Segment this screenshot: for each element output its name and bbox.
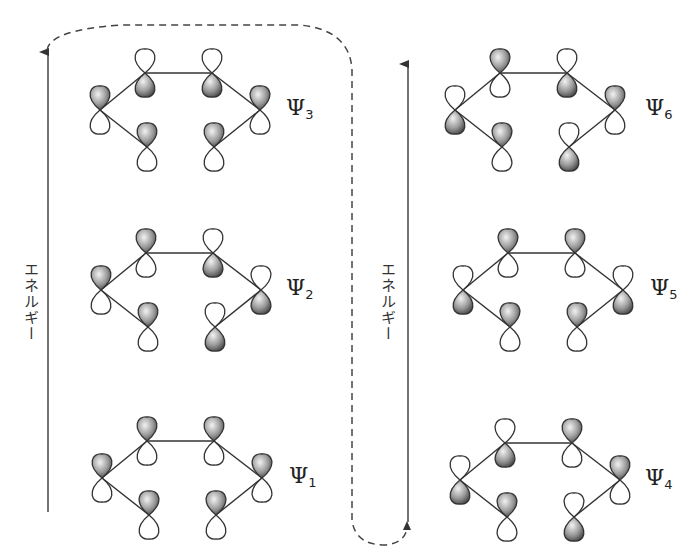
p-orbital-bottom-left <box>138 303 158 351</box>
orbital-psi4 <box>450 419 630 541</box>
unshaded-lobe <box>557 49 577 73</box>
p-orbital-right <box>613 266 633 314</box>
psi-1-label: Ψ1 <box>289 463 317 490</box>
unshaded-lobe <box>564 493 584 517</box>
p-orbital-left <box>90 86 110 134</box>
shaded-lobe <box>91 266 111 290</box>
p-orbital-left <box>445 86 465 134</box>
shaded-lobe <box>610 456 630 480</box>
shaded-lobe <box>500 303 520 327</box>
unshaded-lobe <box>450 456 470 480</box>
shaded-lobe <box>92 454 112 478</box>
shaded-lobe <box>613 290 633 314</box>
shaded-lobe <box>495 443 515 467</box>
shaded-lobe <box>559 147 579 171</box>
p-orbital-right <box>610 456 630 504</box>
unshaded-lobe <box>252 478 272 502</box>
unshaded-lobe <box>136 253 156 277</box>
unshaded-lobe <box>613 266 633 290</box>
shaded-lobe <box>252 454 272 478</box>
p-orbital-bottom-right <box>559 123 579 171</box>
orbital-psi3 <box>90 49 270 171</box>
unshaded-lobe <box>250 110 270 134</box>
unshaded-lobe <box>138 327 158 351</box>
unshaded-lobe <box>565 253 585 277</box>
shaded-lobe <box>445 110 465 134</box>
unshaded-lobe <box>445 86 465 110</box>
shaded-lobe <box>136 229 156 253</box>
shaded-lobe <box>567 303 587 327</box>
unshaded-lobe <box>495 419 515 443</box>
unshaded-lobe <box>204 147 224 171</box>
unshaded-lobe <box>137 147 157 171</box>
unshaded-lobe <box>90 110 110 134</box>
p-orbital-bottom-right <box>567 303 587 351</box>
orbital-psi1 <box>92 417 272 539</box>
psi-5-label: Ψ5 <box>650 275 678 302</box>
unshaded-lobe <box>204 441 224 465</box>
p-orbital-bottom-right <box>564 493 584 541</box>
energy-label-right: エネルギー <box>379 262 394 342</box>
shaded-lobe <box>497 493 517 517</box>
shaded-lobe <box>498 229 518 253</box>
shaded-lobe <box>605 86 625 110</box>
p-orbital-bottom-left <box>137 123 157 171</box>
shaded-lobe <box>206 491 226 515</box>
unshaded-lobe <box>251 266 271 290</box>
shaded-lobe <box>453 290 473 314</box>
shaded-lobe <box>562 419 582 443</box>
orbital-psi6 <box>445 49 625 171</box>
shaded-lobe <box>557 73 577 97</box>
unshaded-lobe <box>91 290 111 314</box>
unshaded-lobe <box>490 73 510 97</box>
unshaded-lobe <box>500 327 520 351</box>
p-orbital-left <box>91 266 111 314</box>
shaded-lobe <box>135 73 155 97</box>
unshaded-lobe <box>92 478 112 502</box>
shaded-lobe <box>250 86 270 110</box>
p-orbital-bottom-left <box>500 303 520 351</box>
shaded-lobe <box>137 417 157 441</box>
dashed-arrowhead <box>403 521 411 530</box>
unshaded-lobe <box>139 515 159 539</box>
energy-label-left: エネルギー <box>22 262 37 342</box>
p-orbital-bottom-right <box>206 491 226 539</box>
p-orbital-bottom-left <box>492 123 512 171</box>
p-orbital-right <box>250 86 270 134</box>
unshaded-lobe <box>610 480 630 504</box>
shaded-lobe <box>137 123 157 147</box>
p-orbital-left <box>92 454 112 502</box>
shaded-lobe <box>204 123 224 147</box>
p-orbital-right <box>605 86 625 134</box>
unshaded-lobe <box>567 327 587 351</box>
p-orbital-right <box>252 454 272 502</box>
unshaded-lobe <box>498 253 518 277</box>
psi-3-label: Ψ3 <box>286 95 314 122</box>
unshaded-lobe <box>137 441 157 465</box>
shaded-lobe <box>205 327 225 351</box>
p-orbital-bottom-left <box>139 491 159 539</box>
unshaded-lobe <box>605 110 625 134</box>
shaded-lobe <box>139 491 159 515</box>
unshaded-lobe <box>559 123 579 147</box>
unshaded-lobe <box>453 266 473 290</box>
unshaded-lobe <box>562 443 582 467</box>
unshaded-lobe <box>205 303 225 327</box>
shaded-lobe <box>492 123 512 147</box>
p-orbital-bottom-right <box>204 123 224 171</box>
shaded-lobe <box>90 86 110 110</box>
shaded-lobe <box>202 73 222 97</box>
psi-6-label: Ψ6 <box>645 95 673 122</box>
psi-2-label: Ψ2 <box>286 275 314 302</box>
shaded-lobe <box>203 253 223 277</box>
unshaded-lobe <box>497 517 517 541</box>
p-orbital-bottom-left <box>497 493 517 541</box>
shaded-lobe <box>565 229 585 253</box>
p-orbital-left <box>453 266 473 314</box>
shaded-lobe <box>138 303 158 327</box>
benzene-mo-diagram <box>0 0 693 557</box>
orbital-psi2 <box>91 229 271 351</box>
unshaded-lobe <box>202 49 222 73</box>
p-orbital-bottom-right <box>205 303 225 351</box>
p-orbital-left <box>450 456 470 504</box>
